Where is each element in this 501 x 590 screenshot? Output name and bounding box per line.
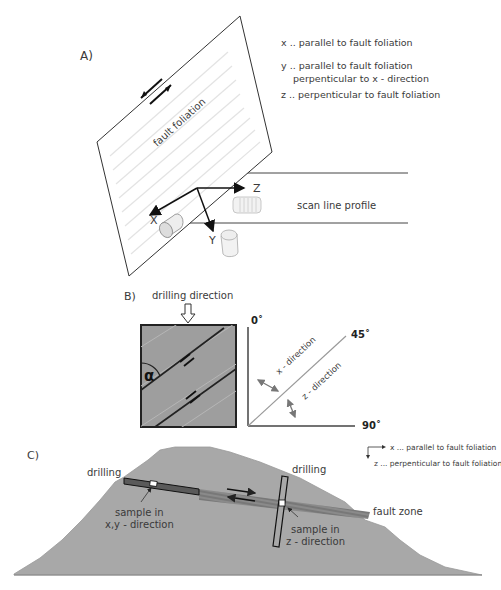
legend-y-line2: perpenticular to x - direction <box>293 73 429 84</box>
panel-b: B) drilling direction <box>120 285 381 455</box>
legend-z: z .. perpenticular to fault foliation <box>281 89 440 100</box>
drilling-left-label: drilling <box>87 467 121 478</box>
drilling-direction-label: drilling direction <box>152 290 233 301</box>
legend-c-z: z ... perpenticular to fault foliation <box>374 459 501 468</box>
x-direction-label: x - direction <box>274 335 318 377</box>
sample-xy-label-line1: sample in <box>115 507 164 518</box>
scan-line-profile-label: scan line profile <box>297 200 376 211</box>
legend-y-line1: y .. parallel to fault foliation <box>281 60 413 71</box>
x-axis-label: X <box>150 214 158 227</box>
alpha-angle-label: α <box>144 367 154 385</box>
sample-z-label-line2: z - direction <box>286 536 345 547</box>
sample-z-label-line1: sample in <box>291 524 340 535</box>
angle-0-label: 0˚ <box>251 315 263 326</box>
drilling-direction-arrow-icon <box>181 304 195 323</box>
sample-xy-label-line2: x,y - direction <box>105 519 174 530</box>
y-axis-label: Y <box>208 234 216 247</box>
figure-canvas: A) fault foliation <box>0 0 501 590</box>
fault-plane <box>97 16 272 276</box>
panel-a-label: A) <box>80 49 93 63</box>
z-direction-label: z - direction <box>300 360 344 402</box>
cylinder-z-icon <box>233 197 261 213</box>
legend-c-x: x ... parallel to fault foliation <box>390 443 497 452</box>
panel-c-label: C) <box>27 449 39 462</box>
panel-a: A) fault foliation <box>80 16 440 276</box>
fault-zone-label: fault zone <box>373 506 423 517</box>
sample-xy-marker <box>150 481 158 487</box>
z-axis-label: Z <box>253 182 261 195</box>
legend-x: x .. parallel to fault foliation <box>281 37 413 48</box>
angle-90-label: 90˚ <box>362 420 381 431</box>
drilling-right-label: drilling <box>292 464 326 475</box>
sample-z-marker <box>279 500 285 506</box>
cylinder-y-icon <box>221 230 238 257</box>
panel-a-legend: x .. parallel to fault foliation y .. pa… <box>281 37 440 100</box>
panel-c: C) drilling drilling sample in x,y - dir… <box>14 443 501 575</box>
panel-b-label: B) <box>124 290 136 303</box>
angle-45-label: 45˚ <box>351 329 370 340</box>
panel-c-legend: x ... parallel to fault foliation z ... … <box>366 443 501 468</box>
